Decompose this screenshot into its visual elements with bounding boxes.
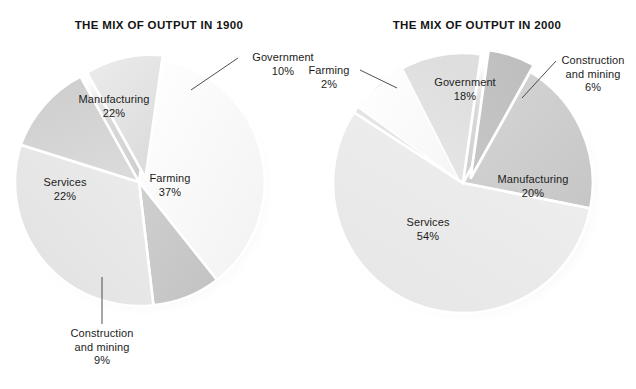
pie-label-2000-manufacturing: Manufacturing 20% — [478, 173, 588, 200]
pie-label-1900-services: Services 22% — [21, 176, 109, 203]
label-pct: 9% — [42, 354, 162, 368]
label-pct: 20% — [478, 187, 588, 201]
label-pct: 18% — [411, 90, 519, 104]
label-name: Services — [387, 216, 469, 230]
slice-1900-services[interactable] — [15, 145, 153, 306]
label-name: Construction — [552, 54, 634, 68]
label-name: Construction — [42, 327, 162, 341]
label-name: Farming — [299, 64, 359, 78]
label-pct: 22% — [21, 190, 109, 204]
pie-label-1900-farming: Farming 37% — [130, 172, 210, 199]
pie-label-1900-manufacturing: Manufacturing 22% — [59, 93, 169, 120]
label-name: Government — [241, 51, 325, 65]
slice-2000-government[interactable] — [354, 53, 481, 183]
pie-label-1900-construction: Construction and mining 9% — [42, 327, 162, 368]
label-pct: 6% — [552, 81, 634, 95]
chart-figure: THE MIX OF OUTPUT IN 1900 THE MIX OF OUT… — [0, 0, 636, 389]
label-name2: and mining — [552, 68, 634, 82]
label-pct: 2% — [299, 78, 359, 92]
chart-title-2000: THE MIX OF OUTPUT IN 2000 — [318, 19, 636, 31]
label-name: Farming — [130, 172, 210, 186]
slice-2000-construction[interactable] — [471, 50, 534, 179]
leader-line-2000-construction — [522, 61, 556, 98]
label-name2: and mining — [42, 341, 162, 355]
pie-label-2000-farming: Farming 2% — [299, 64, 359, 91]
label-name: Manufacturing — [59, 93, 169, 107]
pie-label-2000-services: Services 54% — [387, 216, 469, 243]
pie-label-2000-construction: Construction and mining 6% — [552, 54, 634, 95]
label-pct: 54% — [387, 230, 469, 244]
label-name: Manufacturing — [478, 173, 588, 187]
slice-1900-construction[interactable] — [139, 182, 217, 305]
label-name: Services — [21, 176, 109, 190]
leader-line-2000-farming — [360, 70, 397, 88]
label-pct: 22% — [59, 107, 169, 121]
chart-title-1900: THE MIX OF OUTPUT IN 1900 — [0, 19, 318, 31]
leader-line-1900-government — [191, 58, 238, 90]
pie-label-2000-government: Government 18% — [411, 76, 519, 103]
label-name: Government — [411, 76, 519, 90]
label-pct: 37% — [130, 186, 210, 200]
